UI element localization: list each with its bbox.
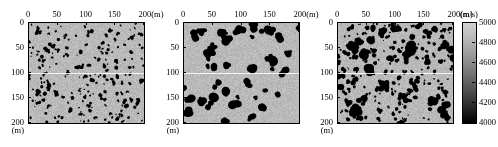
panel-middle-xtick-0: 0 — [181, 10, 185, 19]
panel-right-xtickmark-150 — [423, 22, 424, 25]
panel-right-ytick-50: 50 — [311, 43, 333, 52]
panel-right-ytick-100: 100 — [311, 68, 333, 77]
panel-right-ytickmark-200 — [337, 122, 340, 123]
panel-middle-ytickmark-50 — [183, 47, 186, 48]
panel-left-yaxis-unit: (m) — [2, 126, 24, 135]
colorbar-tickmark-4600 — [472, 62, 475, 63]
panel-left-xtick-150: 150 — [108, 10, 121, 19]
panel-left-xtickmark-200 — [143, 22, 144, 25]
panel-right-ytickmark-150 — [337, 97, 340, 98]
panel-middle-xtickmark-150 — [269, 22, 270, 25]
panel-middle-xtickmark-200 — [298, 22, 299, 25]
panel-left-ytickmark-150 — [28, 97, 31, 98]
colorbar-tick-4800: 4800 — [479, 38, 496, 47]
panel-left-xtick-0: 0 — [26, 10, 30, 19]
panel-middle-ytick-0: 0 — [157, 18, 179, 27]
panel-left-ytickmark-100 — [28, 72, 31, 73]
colorbar-tickmark-4400 — [472, 82, 475, 83]
colorbar-tick-5000: 5000 — [479, 18, 496, 27]
panel-left-ytickmark-0 — [28, 22, 31, 23]
colorbar-tick-4400: 4400 — [479, 78, 496, 87]
panel-middle-ytickmark-200 — [183, 122, 186, 123]
panel-right-xtickmark-50 — [366, 22, 367, 25]
panel-right-xtick-150: 150 — [417, 10, 430, 19]
panel-middle-xtick-100: 100 — [234, 10, 247, 19]
colorbar-tickmark-4200 — [472, 102, 475, 103]
panel-middle-ytick-100: 100 — [157, 68, 179, 77]
panel-middle-xtickmark-50 — [212, 22, 213, 25]
colorbar-tickmark-4800 — [472, 42, 475, 43]
panel-right-xtick-50: 50 — [362, 10, 371, 19]
panel-left-ytickmark-50 — [28, 47, 31, 48]
panel-middle-xtick-50: 50 — [208, 10, 217, 19]
panel-middle-ytick-150: 150 — [157, 93, 179, 102]
panel-left-horizon-line — [29, 73, 144, 74]
panel-left-ytick-50: 50 — [2, 43, 24, 52]
panel-middle-yaxis-unit: (m) — [157, 126, 179, 135]
panel-right-ytick-0: 0 — [311, 18, 333, 27]
panel-left-xtick-100: 100 — [79, 10, 92, 19]
panel-left-ytickmark-200 — [28, 122, 31, 123]
panel-right-ytick-150: 150 — [311, 93, 333, 102]
panel-left-xtickmark-50 — [57, 22, 58, 25]
panel-right-xtickmark-100 — [395, 22, 396, 25]
colorbar-tick-4000: 4000 — [479, 118, 496, 127]
panel-middle-xtickmark-100 — [241, 22, 242, 25]
panel-right-plot-area — [337, 22, 454, 124]
panel-left-xtickmark-100 — [86, 22, 87, 25]
panel-middle-horizon-line — [184, 73, 299, 74]
panel-left-ytick-150: 150 — [2, 93, 24, 102]
panel-middle-ytickmark-150 — [183, 97, 186, 98]
colorbar-tick-4600: 4600 — [479, 58, 496, 67]
panel-left-plot-area — [28, 22, 145, 124]
panel-right-ytickmark-100 — [337, 72, 340, 73]
panel-middle-ytick-50: 50 — [157, 43, 179, 52]
colorbar-tick-4200: 4200 — [479, 98, 496, 107]
panel-right-xtick-0: 0 — [335, 10, 339, 19]
panel-middle-ytickmark-100 — [183, 72, 186, 73]
panel-left-ytick-100: 100 — [2, 68, 24, 77]
panel-right-yaxis-unit: (m) — [311, 126, 333, 135]
panel-middle-xtick-150: 150 — [263, 10, 276, 19]
panel-right-xtick-100: 100 — [388, 10, 401, 19]
panel-right-horizon-line — [338, 73, 453, 74]
colorbar-gradient — [462, 22, 477, 124]
panel-right-ytickmark-50 — [337, 47, 340, 48]
panel-left-xtickmark-150 — [114, 22, 115, 25]
panel-left-xtick-50: 50 — [53, 10, 62, 19]
panel-left-ytick-0: 0 — [2, 18, 24, 27]
colorbar-unit-label: (m/s) — [460, 10, 478, 19]
panel-middle-ytickmark-0 — [183, 22, 186, 23]
panel-right-xtickmark-200 — [452, 22, 453, 25]
figure-root: 050100150200(m)050100150200(m)0501001502… — [0, 0, 498, 147]
panel-right-ytickmark-0 — [337, 22, 340, 23]
panel-middle-plot-area — [183, 22, 300, 124]
